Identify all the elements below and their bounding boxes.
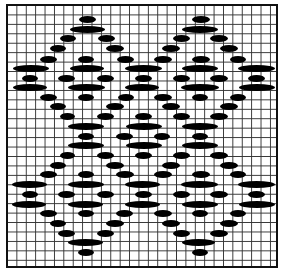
stitch-dash bbox=[97, 230, 114, 237]
stitch-dash bbox=[78, 94, 94, 101]
stitch-dash bbox=[13, 84, 47, 91]
stitch-dash bbox=[78, 210, 94, 217]
stitch-dash bbox=[40, 56, 57, 63]
stitch-dash bbox=[78, 56, 94, 63]
stitch-dash bbox=[116, 171, 134, 178]
stitch-dash bbox=[173, 230, 190, 237]
stitch-dash bbox=[220, 45, 238, 52]
stitch-dash bbox=[192, 210, 208, 217]
stitch-dash bbox=[12, 201, 46, 208]
stitch-dash bbox=[116, 210, 133, 217]
stitch-dash bbox=[135, 75, 152, 82]
stitch-dash bbox=[60, 113, 75, 120]
stitch-dash bbox=[97, 75, 114, 82]
stitch-dash bbox=[97, 113, 114, 120]
stitch-dash bbox=[50, 103, 66, 110]
stitch-dash bbox=[68, 84, 105, 91]
stitch-dash bbox=[58, 230, 75, 237]
stitch-dash bbox=[181, 84, 219, 91]
stitch-dash bbox=[97, 152, 114, 159]
stitch-dash bbox=[78, 171, 94, 178]
stitch-dash bbox=[68, 123, 104, 130]
stitch-dash bbox=[220, 103, 238, 110]
stitch-dash bbox=[40, 210, 57, 217]
stitch-dash bbox=[230, 56, 246, 63]
stitch-dash bbox=[182, 239, 215, 246]
stitch-dash bbox=[182, 65, 218, 72]
stitch-dash bbox=[40, 171, 57, 178]
stitch-dash bbox=[106, 220, 124, 227]
stitch-dash bbox=[210, 152, 228, 159]
stitch-dash bbox=[70, 26, 105, 33]
stitch-dash bbox=[22, 191, 38, 198]
stitch-dash bbox=[126, 142, 162, 149]
stitch-dash bbox=[173, 191, 190, 198]
stitch-dash bbox=[181, 181, 218, 188]
stitch-dash bbox=[192, 16, 210, 23]
stitch-dash bbox=[125, 84, 159, 91]
stitch-dash bbox=[192, 94, 208, 101]
stitch-dash bbox=[106, 45, 124, 52]
stitch-dash bbox=[126, 123, 162, 130]
stitch-dash bbox=[106, 162, 124, 169]
stitch-dash bbox=[162, 220, 180, 227]
stitch-dash bbox=[68, 142, 104, 149]
stitch-dash bbox=[125, 65, 162, 72]
stitch-dash bbox=[173, 152, 190, 159]
stitch-dash bbox=[135, 113, 152, 120]
stitch-dash bbox=[230, 94, 246, 101]
stitch-dash bbox=[154, 133, 170, 140]
stitch-dash bbox=[162, 103, 180, 110]
stitch-dash bbox=[220, 220, 238, 227]
stitch-dash bbox=[154, 210, 172, 217]
stitch-dash bbox=[60, 152, 75, 159]
stitch-dash bbox=[68, 181, 104, 188]
stitch-dash bbox=[68, 239, 103, 246]
stitch-dash bbox=[173, 75, 190, 82]
stitch-dash bbox=[210, 75, 228, 82]
stitch-dash bbox=[238, 181, 275, 188]
stitch-dash bbox=[70, 65, 104, 72]
stitch-dash bbox=[78, 133, 94, 140]
stitch-dash bbox=[13, 65, 49, 72]
stitch-dash bbox=[162, 162, 180, 169]
stitch-dash bbox=[125, 201, 160, 208]
stitch-dash bbox=[22, 75, 38, 82]
stitch-dash bbox=[125, 181, 160, 188]
stitch-dash bbox=[50, 45, 66, 52]
stitch-dash bbox=[210, 230, 228, 237]
stitch-dash bbox=[68, 201, 103, 208]
stitch-dash bbox=[135, 191, 152, 198]
stitch-dash bbox=[192, 171, 210, 178]
stitch-dash bbox=[116, 133, 133, 140]
stitch-dash bbox=[182, 123, 218, 130]
stitch-dash bbox=[182, 201, 218, 208]
stitch-dash bbox=[117, 56, 134, 63]
stitch-dash bbox=[58, 75, 75, 82]
stitch-dash bbox=[173, 113, 190, 120]
stitch-dash bbox=[210, 191, 228, 198]
stitch-dash bbox=[60, 35, 76, 42]
stitch-dash bbox=[97, 191, 114, 198]
stitch-dash bbox=[79, 16, 96, 23]
stitch-dash bbox=[98, 35, 115, 42]
stitch-dash bbox=[50, 220, 66, 227]
stitch-dash bbox=[40, 94, 57, 101]
stitch-dash bbox=[182, 142, 218, 149]
stitch-dash bbox=[248, 75, 265, 82]
stitch-dash bbox=[238, 65, 275, 72]
stitch-dash bbox=[154, 171, 172, 178]
stitch-dash bbox=[118, 94, 134, 101]
stitch-dash bbox=[58, 191, 75, 198]
stitch-dash bbox=[230, 171, 246, 178]
stitch-dash bbox=[50, 162, 66, 169]
stitch-dash bbox=[192, 249, 208, 256]
stitch-dash bbox=[210, 35, 228, 42]
stitch-dash bbox=[135, 152, 152, 159]
stitch-dash bbox=[154, 94, 172, 101]
stitch-dash bbox=[106, 103, 124, 110]
stitch-dash bbox=[162, 45, 180, 52]
stitch-dash bbox=[230, 210, 246, 217]
stitch-dash bbox=[192, 133, 208, 140]
stitch-dash bbox=[192, 56, 210, 63]
